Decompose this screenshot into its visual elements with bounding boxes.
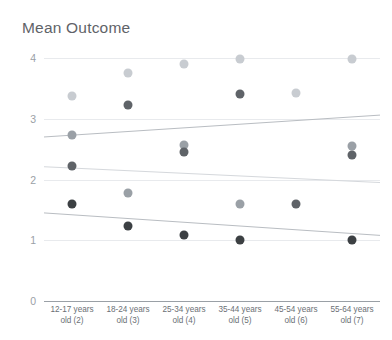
x-tick-label-1: 12-17 years old (2) (43, 305, 101, 326)
y-tick-label-3: 3 (30, 113, 36, 125)
gridline-3: 3 (44, 119, 380, 120)
datapoint[interactable] (180, 231, 189, 240)
datapoint[interactable] (124, 222, 133, 231)
datapoint[interactable] (68, 130, 77, 139)
datapoint[interactable] (348, 142, 357, 151)
x-tick-label-3: 25-34 years old (4) (155, 305, 213, 326)
chart-container: Mean Outcome 01234 12-17 years old (2)18… (0, 0, 392, 340)
datapoint[interactable] (348, 151, 357, 160)
datapoint[interactable] (124, 188, 133, 197)
datapoint[interactable] (292, 89, 301, 98)
datapoint[interactable] (236, 55, 245, 64)
gridline-2: 2 (44, 180, 380, 181)
datapoint[interactable] (180, 60, 189, 69)
datapoint[interactable] (348, 236, 357, 245)
datapoint[interactable] (348, 54, 357, 63)
datapoint[interactable] (236, 199, 245, 208)
datapoint[interactable] (180, 148, 189, 157)
x-tick-label-2: 18-24 years old (3) (99, 305, 157, 326)
datapoint[interactable] (124, 100, 133, 109)
y-tick-label-2: 2 (30, 174, 36, 186)
x-tick-label-5: 45-54 years old (6) (267, 305, 325, 326)
lower-trend-line (44, 213, 380, 235)
datapoint[interactable] (68, 91, 77, 100)
chart-title: Mean Outcome (22, 19, 130, 37)
datapoint[interactable] (236, 90, 245, 99)
y-tick-label-4: 4 (30, 52, 36, 64)
gridline-4: 4 (44, 58, 380, 59)
datapoint[interactable] (292, 199, 301, 208)
plot-area: 01234 12-17 years old (2)18-24 years old… (44, 58, 380, 301)
datapoint[interactable] (236, 236, 245, 245)
gridline-1: 1 (44, 240, 380, 241)
datapoint[interactable] (68, 199, 77, 208)
x-tick-label-4: 35-44 years old (5) (211, 305, 269, 326)
y-tick-label-0: 0 (30, 295, 36, 307)
x-axis-line: 0 (44, 301, 380, 302)
x-tick-label-6: 55-64 years old (7) (323, 305, 381, 326)
datapoint[interactable] (68, 162, 77, 171)
datapoint[interactable] (124, 69, 133, 78)
y-tick-label-1: 1 (30, 234, 36, 246)
